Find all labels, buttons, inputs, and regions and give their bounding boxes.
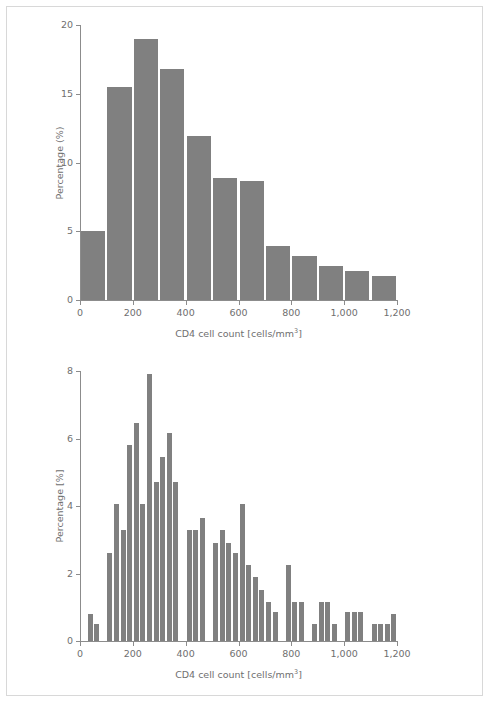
- histogram-bar: [352, 612, 357, 641]
- histogram-bar: [220, 530, 225, 641]
- y-axis-tick: [76, 371, 80, 372]
- x-axis-tick-label: 200: [113, 649, 153, 659]
- x-axis-tick-label: 800: [271, 308, 311, 318]
- histogram-bar: [345, 271, 369, 300]
- histogram-bar: [299, 602, 304, 641]
- x-axis-tick-label: 1,000: [324, 308, 364, 318]
- x-axis-title-bracket: ]: [298, 669, 302, 680]
- x-axis-tick: [239, 642, 240, 646]
- histogram-bar: [140, 504, 145, 641]
- x-axis-tick-label: 400: [166, 649, 206, 659]
- y-axis-title-bottom: Percentage [%]: [54, 470, 65, 543]
- y-axis-tick: [76, 94, 80, 95]
- histogram-bar: [107, 87, 131, 300]
- histogram-bar: [312, 624, 317, 641]
- histogram-bar: [187, 530, 192, 641]
- x-axis-tick-label: 600: [219, 308, 259, 318]
- histogram-bar: [200, 518, 205, 641]
- y-axis-tick-label: 2: [33, 569, 73, 579]
- histogram-bar: [160, 69, 184, 300]
- x-axis-tick-label: 800: [271, 649, 311, 659]
- bars-layer: [81, 25, 398, 300]
- y-axis-tick: [76, 506, 80, 507]
- histogram-bar: [213, 543, 218, 641]
- histogram-bar: [240, 181, 264, 300]
- histogram-bar: [385, 624, 390, 641]
- histogram-bar: [358, 612, 363, 641]
- y-axis-tick-label: 4: [33, 501, 73, 511]
- histogram-bar: [134, 423, 139, 641]
- x-axis-tick: [186, 301, 187, 305]
- histogram-bar: [114, 504, 119, 641]
- y-axis-tick-label: 20: [33, 20, 73, 30]
- y-axis-tick-label: 0: [33, 636, 73, 646]
- x-axis-tick: [239, 301, 240, 305]
- x-axis-tick: [344, 301, 345, 305]
- histogram-bar: [173, 482, 178, 641]
- x-axis-title-top: CD4 cell count [cells/mm3]: [175, 326, 302, 339]
- histogram-bar: [154, 482, 159, 641]
- y-axis-tick: [76, 231, 80, 232]
- histogram-bar: [332, 624, 337, 641]
- histogram-bar: [81, 231, 105, 300]
- histogram-bar: [121, 530, 126, 641]
- y-axis-tick-label: 10: [33, 158, 73, 168]
- histogram-bar: [345, 612, 350, 641]
- histogram-bar: [266, 246, 290, 300]
- histogram-bar: [391, 614, 396, 641]
- histogram-bar: [259, 590, 264, 641]
- x-axis-tick-label: 0: [60, 308, 100, 318]
- histogram-bar: [167, 433, 172, 641]
- histogram-bar: [372, 276, 396, 300]
- histogram-bar: [213, 178, 237, 300]
- plot-area-bottom: 0246802004006008001,0001,200: [80, 371, 397, 641]
- x-axis-tick: [80, 642, 81, 646]
- x-axis-tick: [397, 642, 398, 646]
- histogram-bar: [193, 530, 198, 641]
- histogram-bar: [240, 504, 245, 641]
- x-axis-tick-label: 0: [60, 649, 100, 659]
- x-axis-tick-label: 1,000: [324, 649, 364, 659]
- histogram-bar: [226, 543, 231, 641]
- histogram-bar: [160, 457, 165, 641]
- chart-panel-bottom: 0246802004006008001,0001,200 Percentage …: [0, 351, 489, 702]
- x-axis-tick-label: 1,200: [377, 649, 417, 659]
- x-axis-tick: [397, 301, 398, 305]
- x-axis-tick-label: 600: [219, 649, 259, 659]
- y-axis-tick-label: 0: [33, 295, 73, 305]
- histogram-bar: [134, 39, 158, 300]
- chart-panel-top: 0510152002004006008001,0001,200 Percenta…: [0, 0, 489, 351]
- x-axis-tick: [133, 642, 134, 646]
- y-axis-tick-label: 6: [33, 434, 73, 444]
- histogram-bar: [233, 553, 238, 641]
- histogram-bar: [319, 602, 324, 641]
- bars-layer: [81, 371, 398, 641]
- histogram-bar: [147, 374, 152, 641]
- histogram-bar: [372, 624, 377, 641]
- histogram-bar: [319, 266, 343, 300]
- y-axis-tick-label: 5: [33, 226, 73, 236]
- plot-area-top: 0510152002004006008001,0001,200: [80, 25, 397, 300]
- y-axis-tick: [76, 163, 80, 164]
- figure-root: 0510152002004006008001,0001,200 Percenta…: [0, 0, 489, 702]
- histogram-bar: [325, 602, 330, 641]
- x-axis-tick-label: 1,200: [377, 308, 417, 318]
- x-axis-tick: [291, 301, 292, 305]
- histogram-bar: [253, 577, 258, 641]
- histogram-bar: [94, 624, 99, 641]
- x-axis-title-text: CD4 cell count [cells/mm: [175, 328, 294, 339]
- histogram-bar: [187, 136, 211, 300]
- y-axis-tick-label: 8: [33, 366, 73, 376]
- histogram-bar: [292, 256, 316, 300]
- histogram-bar: [286, 565, 291, 641]
- x-axis-tick: [291, 642, 292, 646]
- histogram-bar: [127, 445, 132, 641]
- x-axis-tick: [344, 642, 345, 646]
- x-axis-title-bracket: ]: [298, 328, 302, 339]
- x-axis-tick-label: 200: [113, 308, 153, 318]
- histogram-bar: [266, 602, 271, 641]
- x-axis-tick: [186, 642, 187, 646]
- histogram-bar: [246, 565, 251, 641]
- x-axis-title-bottom: CD4 cell count [cells/mm3]: [175, 667, 302, 680]
- histogram-bar: [378, 624, 383, 641]
